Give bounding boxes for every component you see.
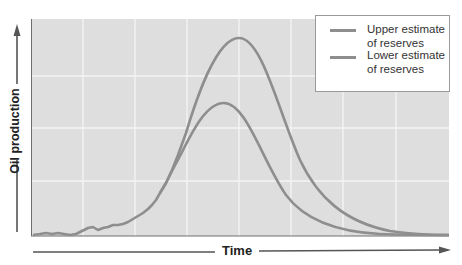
y-axis-label: Oil production xyxy=(8,81,22,181)
legend-label-lower-line1: Lower estimate xyxy=(367,48,451,62)
legend-label-lower-line2: of reserves xyxy=(367,62,451,76)
x-axis-label: Time xyxy=(222,243,252,258)
legend-swatch-upper xyxy=(330,29,356,32)
legend-label-upper-line1: Upper estimate xyxy=(367,22,451,36)
legend-swatch-lower xyxy=(330,56,356,59)
legend: Upper estimate of reserves Lower estimat… xyxy=(315,15,450,92)
